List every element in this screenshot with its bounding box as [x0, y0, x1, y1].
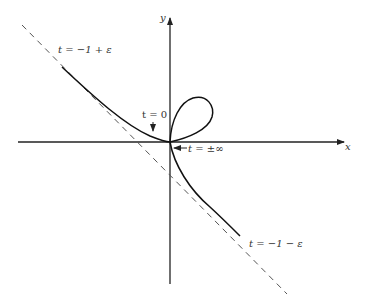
x-axis-label: x: [345, 141, 351, 152]
asymptote-line: [22, 25, 287, 294]
y-axis-label: y: [160, 12, 166, 23]
curve-lower-branch: [170, 142, 240, 236]
t-zero-label: t = 0: [142, 109, 167, 120]
lower-branch-label: t = −1 − ε: [249, 238, 303, 249]
t-inf-label: t = ±∞: [188, 143, 223, 154]
diagram-canvas: [0, 0, 365, 303]
curve-loop: [170, 97, 213, 142]
upper-branch-label: t = −1 + ε: [58, 44, 112, 55]
curve-upper-branch: [62, 67, 170, 142]
